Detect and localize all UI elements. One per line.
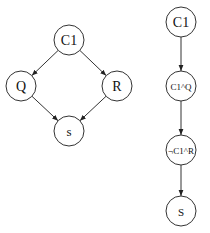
node-right-graph-S: S (166, 196, 196, 226)
edge-left-graph-R-to-S (80, 96, 106, 120)
edge-left-graph-C1-to-Q (32, 50, 58, 75)
diagram-canvas: C1QRsC1C1^Q¬C1^RS (0, 0, 210, 233)
node-right-graph-C1Q: C1^Q (166, 71, 196, 101)
node-left-graph-C1: C1 (54, 25, 84, 55)
node-label: ¬C1^R (168, 146, 194, 156)
node-left-graph-R: R (102, 71, 132, 101)
node-label: R (112, 79, 122, 94)
edges-layer (32, 37, 181, 196)
node-right-graph-C1: C1 (166, 7, 196, 37)
node-left-graph-S: s (54, 116, 84, 146)
nodes-layer: C1QRsC1C1^Q¬C1^RS (6, 7, 196, 226)
edge-left-graph-C1-to-R (80, 50, 106, 75)
node-label: s (66, 124, 71, 139)
node-label: C1 (61, 33, 77, 48)
node-label: C1^Q (170, 82, 192, 92)
node-left-graph-Q: Q (6, 71, 36, 101)
node-label: Q (16, 79, 26, 94)
edge-left-graph-Q-to-S (32, 96, 58, 120)
node-label: C1 (173, 15, 189, 30)
node-right-graph-nC1R: ¬C1^R (166, 135, 196, 165)
node-label: S (178, 206, 184, 218)
